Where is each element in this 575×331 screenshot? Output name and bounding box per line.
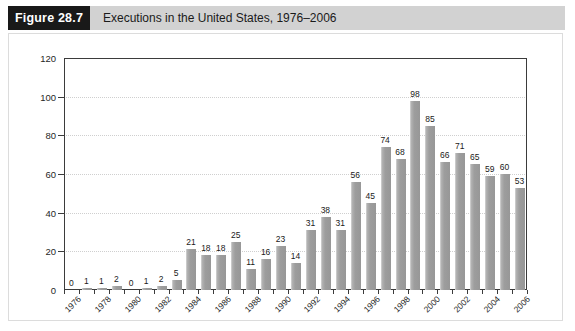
bar <box>142 288 152 290</box>
bar-value-label: 66 <box>433 150 457 160</box>
x-tick-label: 1990 <box>272 294 292 314</box>
x-tick-label: 1986 <box>212 294 232 314</box>
bar-value-label: 71 <box>448 141 472 151</box>
x-tick-label: 1982 <box>153 294 173 314</box>
x-tick-mark <box>64 290 65 294</box>
x-tick-mark <box>258 290 259 294</box>
bar-value-label: 56 <box>343 170 367 180</box>
bar <box>396 159 406 290</box>
bar <box>455 153 465 290</box>
bar-value-label: 38 <box>313 205 337 215</box>
x-tick-label: 1998 <box>392 294 412 314</box>
bar <box>500 174 510 290</box>
x-tick-mark <box>497 290 498 294</box>
y-tick-label: 60 <box>16 169 56 180</box>
x-tick-mark <box>303 290 304 294</box>
x-tick-mark <box>109 290 110 294</box>
x-tick-mark <box>273 290 274 294</box>
bar <box>470 164 480 290</box>
bar <box>291 263 301 290</box>
y-tick-label: 40 <box>16 207 56 218</box>
x-tick-mark <box>512 290 513 294</box>
x-tick-label: 2002 <box>451 294 471 314</box>
x-tick-mark <box>393 290 394 294</box>
x-tick-mark <box>228 290 229 294</box>
x-tick-mark <box>482 290 483 294</box>
bar-value-label: 98 <box>403 89 427 99</box>
bar-value-label: 25 <box>224 230 248 240</box>
x-tick-label: 1994 <box>332 294 352 314</box>
bar <box>366 203 376 290</box>
bar-value-label: 5 <box>164 268 188 278</box>
x-tick-mark <box>183 290 184 294</box>
x-tick-mark <box>318 290 319 294</box>
x-tick-label: 1988 <box>242 294 262 314</box>
x-tick-mark <box>198 290 199 294</box>
bar <box>82 288 92 290</box>
bar <box>97 288 107 290</box>
bar-value-label: 85 <box>418 114 442 124</box>
x-tick-mark <box>154 290 155 294</box>
bar-chart: 020406080100120 011201252118182511162314… <box>0 0 575 331</box>
x-tick-label: 2000 <box>422 294 442 314</box>
y-tick-label: 80 <box>16 130 56 141</box>
bar-value-label: 23 <box>269 234 293 244</box>
bar-value-label: 18 <box>209 243 233 253</box>
bar <box>201 255 211 290</box>
x-tick-mark <box>363 290 364 294</box>
x-tick-mark <box>348 290 349 294</box>
bar <box>336 230 346 290</box>
bar <box>515 188 525 290</box>
bar <box>261 259 271 290</box>
y-tick-label: 100 <box>16 91 56 102</box>
bar <box>440 162 450 290</box>
bar-value-label: 74 <box>373 135 397 145</box>
x-tick-mark <box>408 290 409 294</box>
bar-value-label: 31 <box>328 218 352 228</box>
x-tick-mark <box>422 290 423 294</box>
x-tick-label: 1984 <box>183 294 203 314</box>
bar <box>246 269 256 290</box>
bar-value-label: 68 <box>388 147 412 157</box>
x-tick-label: 1992 <box>302 294 322 314</box>
bar <box>306 230 316 290</box>
x-tick-mark <box>79 290 80 294</box>
bar-value-label: 65 <box>463 152 487 162</box>
x-tick-mark <box>94 290 95 294</box>
bar-value-label: 60 <box>493 162 517 172</box>
x-tick-label: 1996 <box>362 294 382 314</box>
bar <box>157 286 167 290</box>
x-tick-label: 1978 <box>93 294 113 314</box>
bar <box>485 176 495 290</box>
x-tick-mark <box>213 290 214 294</box>
x-tick-mark <box>169 290 170 294</box>
y-tick-label: 20 <box>16 246 56 257</box>
x-tick-mark <box>333 290 334 294</box>
x-tick-mark <box>288 290 289 294</box>
x-tick-mark <box>378 290 379 294</box>
bar <box>410 101 420 290</box>
bar-value-label: 53 <box>508 176 532 186</box>
y-tick-label: 120 <box>16 53 56 64</box>
x-tick-mark <box>452 290 453 294</box>
bar <box>381 147 391 290</box>
x-tick-label: 2006 <box>511 294 531 314</box>
bar <box>186 249 196 290</box>
x-tick-label: 1980 <box>123 294 143 314</box>
x-tick-mark <box>243 290 244 294</box>
y-tick-label: 0 <box>16 285 56 296</box>
x-tick-mark <box>437 290 438 294</box>
x-tick-mark <box>467 290 468 294</box>
bar <box>216 255 226 290</box>
x-tick-label: 2004 <box>481 294 501 314</box>
bar-value-label: 11 <box>239 257 263 267</box>
bar <box>172 280 182 290</box>
x-tick-label: 1976 <box>63 294 83 314</box>
bar-value-label: 14 <box>284 251 308 261</box>
x-tick-mark <box>124 290 125 294</box>
bar-value-label: 45 <box>358 191 382 201</box>
bar-value-label: 16 <box>254 247 278 257</box>
x-tick-mark <box>139 290 140 294</box>
bar-value-label: 31 <box>298 218 322 228</box>
x-tick-mark <box>527 290 528 294</box>
